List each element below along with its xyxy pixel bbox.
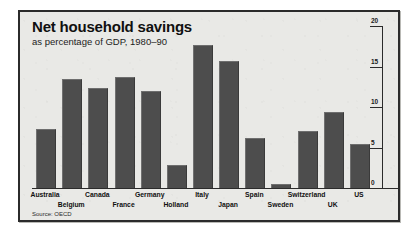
- x-label-us: US: [354, 191, 363, 198]
- x-label-canada: Canada: [85, 191, 110, 198]
- y-axis: 05101520: [370, 26, 396, 188]
- x-label-italy: Italy: [195, 191, 209, 198]
- x-label-germany: Germany: [135, 191, 164, 198]
- x-label-uk: UK: [328, 201, 338, 208]
- x-label-belgium: Belgium: [58, 201, 85, 208]
- bar-us: [350, 144, 370, 188]
- chart-page: Net household savings as percentage of G…: [0, 0, 417, 233]
- bar-canada: [88, 88, 108, 188]
- y-tick-mark: [370, 26, 383, 27]
- bar-australia: [36, 129, 56, 188]
- y-tick-label: 10: [371, 98, 378, 105]
- x-label-holland: Holland: [163, 201, 188, 208]
- y-tick-label: 5: [371, 139, 375, 146]
- bar-japan: [219, 61, 239, 188]
- bar-switzerland: [298, 131, 318, 188]
- bar-holland: [167, 165, 187, 188]
- bar-italy: [193, 45, 213, 188]
- x-label-france: France: [112, 201, 134, 208]
- axis-baseline: [32, 188, 400, 189]
- bar-belgium: [62, 79, 82, 188]
- bar-spain: [245, 138, 265, 188]
- bar-germany: [141, 91, 161, 188]
- x-label-sweden: Sweden: [268, 201, 294, 208]
- y-tick-mark: [370, 188, 383, 189]
- y-tick-mark: [370, 67, 383, 68]
- y-tick-mark: [370, 148, 383, 149]
- bar-france: [115, 77, 135, 188]
- y-tick-mark: [370, 107, 383, 108]
- y-tick-label: 15: [371, 58, 378, 65]
- x-label-switzerland: Switzerland: [288, 191, 326, 198]
- y-tick-label: 20: [371, 17, 378, 24]
- source-note: Source: OECD: [32, 211, 72, 217]
- x-label-australia: Australia: [31, 191, 60, 198]
- x-label-japan: Japan: [218, 201, 238, 208]
- chart-frame: Net household savings as percentage of G…: [18, 10, 400, 222]
- bar-uk: [324, 112, 344, 188]
- plot-area: [32, 26, 372, 188]
- y-tick-label: 0: [371, 179, 375, 186]
- x-label-spain: Spain: [245, 191, 264, 198]
- x-axis-labels: AustraliaBelgiumCanadaFranceGermanyHolla…: [32, 190, 372, 218]
